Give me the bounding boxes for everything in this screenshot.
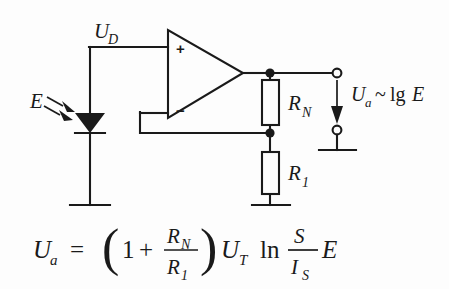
- eq-frac2-num: S: [294, 224, 305, 248]
- eq-lhs-sub: a: [50, 252, 58, 268]
- label-irradiance: E: [29, 89, 43, 113]
- eq-plus: +: [139, 236, 153, 263]
- label-lg-argument: E: [411, 83, 424, 105]
- equation: U a = ( 1 + R N R 1 ) U T ln S I S E: [33, 219, 337, 283]
- eq-ut-sub: T: [239, 252, 249, 268]
- eq-frac1-den-main: R: [166, 255, 180, 279]
- label-diff-voltage: U D: [94, 19, 118, 47]
- node-dot-divider: [265, 128, 274, 137]
- eq-tail: E: [321, 236, 337, 263]
- label-ud-sub: D: [107, 32, 118, 47]
- eq-paren-open: (: [102, 219, 119, 277]
- terminal-bottom: [333, 126, 342, 135]
- label-output-relation: U a ~ lg E: [351, 83, 424, 110]
- eq-ln: ln: [260, 236, 280, 263]
- label-ua-sub: a: [365, 95, 372, 110]
- eq-frac1-num-main: R: [166, 224, 180, 248]
- terminal-top: [333, 69, 342, 78]
- eq-frac2-den-main: I: [290, 255, 299, 279]
- eq-paren-close: ): [200, 219, 217, 277]
- label-resistor-r1: R 1: [287, 161, 309, 190]
- eq-frac1-den-sub: 1: [181, 268, 188, 283]
- label-rn-main: R: [287, 91, 301, 115]
- eq-ut-main: U: [221, 236, 241, 263]
- eq-one: 1: [122, 236, 135, 263]
- eq-frac2-den-sub: S: [302, 268, 309, 283]
- label-r1-sub: 1: [302, 175, 309, 190]
- output-voltage-arrow: [331, 80, 343, 124]
- eq-equals: =: [70, 236, 84, 263]
- photodiode-triangle: [75, 113, 105, 133]
- resistor-rn-body: [262, 80, 279, 125]
- opamp-minus-sign: −: [176, 102, 185, 119]
- circuit-figure: + − U D E R N R 1 U: [0, 0, 449, 289]
- opamp-plus-sign: +: [176, 40, 185, 57]
- resistor-r1-body: [262, 152, 279, 194]
- label-lg: lg: [390, 83, 406, 106]
- node-dot-output: [265, 68, 274, 77]
- label-resistor-rn: R N: [287, 91, 312, 120]
- label-rn-sub: N: [301, 105, 312, 120]
- label-tilde: ~: [375, 83, 386, 105]
- label-r1-main: R: [287, 161, 301, 185]
- wire-feedback: [140, 112, 270, 133]
